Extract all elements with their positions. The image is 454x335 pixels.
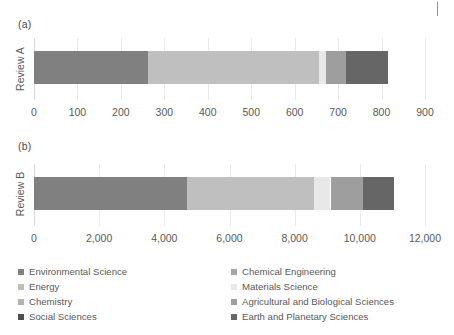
legend-swatch-icon	[18, 269, 24, 275]
legend-label: Earth and Planetary Sciences	[242, 311, 368, 322]
axis-label-review-b: Review B	[14, 162, 26, 226]
x-a-tick-0: 0	[31, 106, 37, 118]
x-a-tick-4: 400	[199, 106, 217, 118]
legend-swatch-icon	[231, 284, 237, 290]
legend-column-right: Chemical EngineeringMaterials ScienceAgr…	[231, 264, 444, 324]
bar-segment[interactable]	[34, 51, 148, 84]
bar-segment[interactable]	[326, 51, 346, 84]
legend-swatch-icon	[18, 284, 24, 290]
gridline	[425, 164, 426, 226]
x-b-tick-3: 6,000	[216, 232, 242, 244]
legend-label: Chemistry	[29, 296, 72, 307]
panel-b: (b) Review B 02,0004,0006,0008,00010,000…	[0, 140, 454, 258]
legend-item[interactable]: Materials Science	[231, 279, 444, 294]
x-a-tick-6: 600	[286, 106, 304, 118]
bar-segment[interactable]	[346, 51, 388, 84]
gridline	[425, 38, 426, 100]
x-b-tick-2: 4,000	[151, 232, 177, 244]
x-a-tick-2: 200	[112, 106, 130, 118]
bar-segment[interactable]	[148, 51, 319, 84]
x-b-tick-5: 10,000	[344, 232, 376, 244]
legend-label: Environmental Science	[29, 266, 127, 277]
bar-segment[interactable]	[314, 177, 330, 210]
bar-segment[interactable]	[331, 177, 364, 210]
legend-label: Materials Science	[242, 281, 318, 292]
legend-swatch-icon	[231, 314, 237, 320]
x-b-tick-1: 2,000	[86, 232, 112, 244]
legend-label: Agricultural and Biological Sciences	[242, 296, 394, 307]
legend-item[interactable]: Environmental Science	[18, 264, 231, 279]
legend-item[interactable]: Agricultural and Biological Sciences	[231, 294, 444, 309]
bar-segment[interactable]	[34, 177, 187, 210]
panel-b-label: (b)	[18, 140, 31, 152]
crop-mark-icon	[437, 2, 438, 16]
legend-label: Social Sciences	[29, 311, 97, 322]
legend-column-left: Environmental ScienceEnergyChemistrySoci…	[18, 264, 231, 324]
x-a-tick-7: 700	[329, 106, 347, 118]
x-a-tick-8: 800	[373, 106, 391, 118]
bar-segment[interactable]	[187, 177, 314, 210]
x-a-tick-9: 900	[416, 106, 434, 118]
legend-swatch-icon	[231, 299, 237, 305]
legend-label: Chemical Engineering	[242, 266, 336, 277]
bar-segment[interactable]	[319, 51, 326, 84]
stacked-bar-review-a[interactable]	[34, 51, 425, 84]
legend-label: Energy	[29, 281, 59, 292]
legend-swatch-icon	[18, 299, 24, 305]
x-b-tick-4: 8,000	[282, 232, 308, 244]
x-a-tick-1: 100	[69, 106, 87, 118]
x-b-tick-0: 0	[31, 232, 37, 244]
legend-swatch-icon	[18, 314, 24, 320]
x-a-tick-5: 500	[242, 106, 260, 118]
legend: Environmental ScienceEnergyChemistrySoci…	[18, 264, 444, 324]
legend-item[interactable]: Chemistry	[18, 294, 231, 309]
panel-a-label: (a)	[18, 18, 31, 30]
x-b-tick-6: 12,000	[409, 232, 441, 244]
x-a-tick-3: 300	[156, 106, 174, 118]
legend-item[interactable]: Chemical Engineering	[231, 264, 444, 279]
legend-item[interactable]: Earth and Planetary Sciences	[231, 309, 444, 324]
plot-area-b	[34, 164, 425, 226]
legend-item[interactable]: Energy	[18, 279, 231, 294]
legend-item[interactable]: Social Sciences	[18, 309, 231, 324]
figure-root: (a) Review A 010020030040050060070080090…	[0, 0, 454, 335]
legend-swatch-icon	[231, 269, 237, 275]
bar-segment[interactable]	[363, 177, 394, 210]
plot-area-a	[34, 38, 425, 100]
stacked-bar-review-b[interactable]	[34, 177, 425, 210]
axis-label-review-a: Review A	[14, 37, 26, 101]
panel-a: (a) Review A 010020030040050060070080090…	[0, 18, 454, 130]
